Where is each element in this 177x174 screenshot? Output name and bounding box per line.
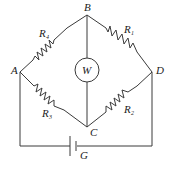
resistor-sub-r4: 4 <box>46 34 49 40</box>
node-label-d: D <box>155 64 164 76</box>
resistor-label-r2: R <box>123 103 131 115</box>
resistor-r2 <box>87 72 152 127</box>
resistor-sub-r1: 1 <box>131 30 134 36</box>
resistor-r3 <box>20 72 87 127</box>
node-label-b: B <box>84 1 91 13</box>
source-label-g: G <box>80 149 88 161</box>
node-label-c: C <box>90 126 98 138</box>
wheatstone-bridge-diagram: B A D C W G R 4 R 1 R 3 R 2 <box>0 0 177 174</box>
meter-label-w: W <box>82 64 92 76</box>
resistor-sub-r3: 3 <box>48 114 52 120</box>
resistor-sub-r2: 2 <box>131 110 134 116</box>
resistor-label-r4: R <box>38 27 46 39</box>
resistor-label-r3: R <box>41 107 49 119</box>
resistor-label-r1: R <box>123 23 131 35</box>
node-label-a: A <box>10 64 18 76</box>
battery-g <box>70 136 76 156</box>
